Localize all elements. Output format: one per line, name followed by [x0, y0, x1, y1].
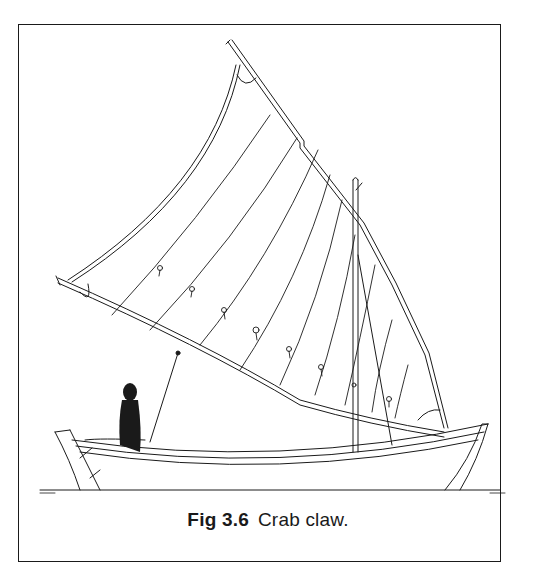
figure-label: Fig 3.6	[187, 509, 249, 530]
figure-caption-text: Crab claw.	[258, 509, 349, 530]
sail-leech	[68, 65, 256, 297]
crab-claw-illustration	[0, 0, 536, 581]
upper-yard	[226, 40, 448, 428]
sail-seams	[112, 115, 408, 418]
sheet-line	[150, 353, 178, 442]
sailor-silhouette	[119, 383, 140, 452]
figure-caption: Fig 3.6Crab claw.	[0, 509, 536, 531]
reef-knots	[158, 266, 392, 408]
waterline	[40, 490, 505, 493]
